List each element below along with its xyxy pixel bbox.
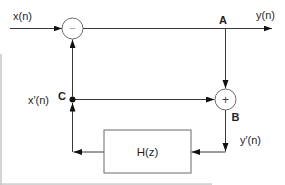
adder-sign: + bbox=[222, 93, 229, 107]
node-b-label: B bbox=[232, 111, 240, 123]
node-c-label: C bbox=[58, 90, 66, 102]
junction-dot-c bbox=[70, 97, 76, 103]
output-signal-label: y(n) bbox=[256, 9, 275, 21]
filter-block-label: H(z) bbox=[137, 146, 159, 158]
input-signal-label: x(n) bbox=[13, 10, 32, 22]
subtractor-sign: − bbox=[69, 22, 75, 34]
scan-edge-bottom bbox=[0, 183, 212, 185]
signal-flow-block-diagram: − + H(z) x(n) y(n) x′(n) y′(n) A B C bbox=[0, 0, 285, 185]
feedback-signal-label: x′(n) bbox=[28, 94, 49, 106]
node-a-label: A bbox=[219, 14, 227, 26]
scan-edge-left bbox=[0, 54, 2, 185]
filter-input-signal-label: y′(n) bbox=[240, 134, 261, 146]
